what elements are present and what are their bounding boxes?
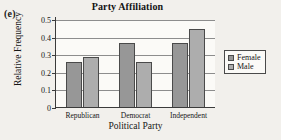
y-tick-label: 0.1: [41, 86, 51, 95]
bar-group: Democrat: [109, 20, 162, 108]
square-swatch-icon: [228, 55, 234, 61]
bar-group: Republican: [56, 20, 109, 108]
bar-republican-male: [83, 57, 99, 108]
y-axis-title: Relative Frequency: [13, 8, 23, 90]
y-tick-label: 0.4: [41, 33, 51, 42]
bar-democrat-male: [136, 62, 152, 108]
x-axis-line: [55, 107, 215, 108]
plot-area: 00.10.20.30.40.5 RepublicanDemocratIndep…: [56, 20, 215, 108]
bar-democrat-female: [119, 43, 135, 108]
figure: (e) Party Affiliation Relative Frequency…: [0, 0, 281, 140]
y-tick-label: 0.5: [41, 16, 51, 25]
x-tick-label: Democrat: [121, 111, 151, 120]
bar-independent-male: [189, 29, 205, 108]
y-tick-label: 0: [47, 104, 51, 113]
bar-independent-female: [172, 43, 188, 108]
bar-republican-female: [66, 62, 82, 108]
x-tick-label: Republican: [65, 111, 99, 120]
legend: FemaleMale: [224, 50, 266, 74]
y-axis-line: [55, 17, 56, 109]
x-tick-label: Independent: [170, 111, 207, 120]
chart-title: Party Affiliation: [40, 1, 215, 12]
legend-item: Female: [228, 53, 261, 62]
y-tick-label: 0.2: [41, 68, 51, 77]
square-swatch-icon: [228, 64, 234, 70]
x-axis-title: Political Party: [56, 121, 215, 131]
legend-item: Male: [228, 62, 261, 71]
legend-label: Female: [237, 53, 261, 62]
y-tick-label: 0.3: [41, 51, 51, 60]
bar-group: Independent: [162, 20, 215, 108]
legend-label: Male: [237, 62, 253, 71]
